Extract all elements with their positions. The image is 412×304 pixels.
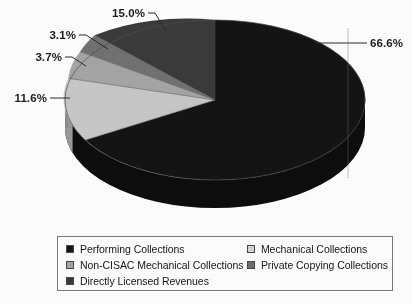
legend-swatch-private-copying-collections — [247, 261, 255, 269]
chart-legend: Performing Collections Mechanical Collec… — [57, 236, 393, 291]
legend-label-performing-collections: Performing Collections — [80, 243, 185, 255]
pie-chart-figure: 66.6% 15.0% 3.1% 3.7% 11.6% Performing C… — [0, 0, 412, 304]
pie-label-66-6: 66.6% — [370, 37, 403, 49]
legend-row: Directly Licensed Revenues — [58, 273, 392, 289]
pie-label-3-7: 3.7% — [35, 51, 62, 63]
legend-row: Non-CISAC Mechanical Collections Private… — [58, 257, 392, 273]
legend-swatch-mechanical-collections — [247, 245, 255, 253]
legend-item-non-cisac-mechanical-collections[interactable]: Non-CISAC Mechanical Collections — [58, 259, 245, 271]
legend-row: Performing Collections Mechanical Collec… — [58, 241, 392, 257]
legend-swatch-non-cisac-mechanical-collections — [66, 261, 74, 269]
legend-label-mechanical-collections: Mechanical Collections — [261, 243, 367, 255]
legend-item-private-copying-collections[interactable]: Private Copying Collections — [245, 259, 392, 271]
legend-swatch-performing-collections — [66, 245, 74, 253]
legend-label-non-cisac-mechanical-collections: Non-CISAC Mechanical Collections — [80, 259, 244, 271]
pie-label-11-6: 11.6% — [15, 92, 47, 104]
pie-label-3-1: 3.1% — [49, 29, 76, 41]
legend-label-private-copying-collections: Private Copying Collections — [261, 259, 388, 271]
legend-swatch-directly-licensed-revenues — [66, 277, 74, 285]
legend-item-performing-collections[interactable]: Performing Collections — [58, 243, 245, 255]
legend-item-directly-licensed-revenues[interactable]: Directly Licensed Revenues — [58, 275, 245, 287]
pie-label-15-0: 15.0% — [112, 7, 145, 19]
legend-item-mechanical-collections[interactable]: Mechanical Collections — [245, 243, 392, 255]
legend-label-directly-licensed-revenues: Directly Licensed Revenues — [80, 275, 209, 287]
